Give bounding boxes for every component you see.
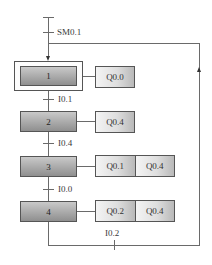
action-q01: Q0.1 [96,156,135,176]
transition-tick-i04 [43,143,54,144]
main-flow-line-top [48,17,49,57]
action-q04: Q0.4 [135,156,175,176]
step-3: 3 [20,156,77,177]
action-q04: Q0.4 [135,201,175,221]
transition-tick-sm01 [43,32,54,33]
arrow-up-icon [197,67,201,72]
action-link-3 [77,166,95,167]
transition-label-i02: I0.2 [105,228,119,238]
transition-label-i04: I0.4 [58,138,72,148]
step-1-number: 1 [46,71,51,81]
step-3-actions: Q0.1 Q0.4 [95,155,175,177]
step-1: 1 [20,66,77,86]
action-q04: Q0.4 [96,112,134,132]
step-2: 2 [20,111,77,132]
step-2-actions: Q0.4 [95,111,135,133]
transition-tick-i02 [114,240,115,250]
action-link-2 [77,121,95,122]
loop-right-line [199,43,200,246]
link-2-3 [48,132,49,156]
step-4: 4 [20,201,77,222]
loop-bottom-line [48,245,200,246]
step-4-number: 4 [46,207,51,217]
transition-label-i00: I0.0 [58,184,72,194]
action-q02: Q0.2 [96,201,135,221]
transition-label-sm01: SM0.1 [57,27,81,37]
transition-tick-i00 [43,189,54,190]
step-2-number: 2 [46,117,51,127]
step-3-number: 3 [46,162,51,172]
link-4-loop [48,222,49,246]
transition-tick-i01 [43,99,54,100]
sfc-diagram: SM0.1 I0.2 I0.1 I0.4 I0.0 1 Q0.0 2 Q0.4 … [0,0,212,265]
step-1-actions: Q0.0 [95,66,135,88]
action-q00: Q0.0 [96,67,134,87]
transition-label-i01: I0.1 [58,94,72,104]
step-4-actions: Q0.2 Q0.4 [95,200,175,222]
action-link-4 [77,211,95,212]
action-link-1 [83,76,95,77]
loop-top-line [48,43,200,44]
